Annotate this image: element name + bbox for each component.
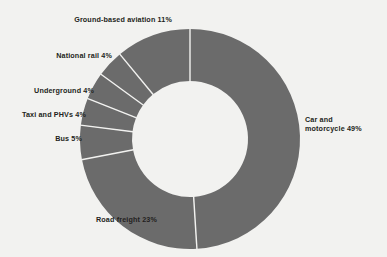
donut-chart: Car and motorcycle 49% Road freight 23% …: [0, 0, 387, 257]
donut-chart-svg: [0, 0, 387, 257]
